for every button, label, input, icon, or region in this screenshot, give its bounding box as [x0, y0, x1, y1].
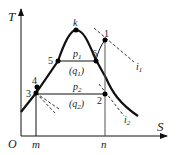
- isenthalp-i2-line-a: [36, 93, 59, 109]
- ts-diagram: T S O k 1 6 5 4 3 2 p1 (q1) p2 (q2) i1 i…: [0, 0, 179, 155]
- label-q2: (q2): [69, 98, 85, 111]
- label-i2: i2: [124, 114, 131, 127]
- label-p2: p2: [72, 81, 82, 94]
- point-5: [56, 59, 61, 64]
- label-i1: i1: [136, 61, 142, 74]
- s-axis-label: S: [157, 119, 164, 134]
- label-k: k: [73, 17, 78, 28]
- point-6: [94, 59, 99, 64]
- origin-label: O: [8, 137, 17, 151]
- label-6: 6: [92, 48, 97, 59]
- label-q1: (q1): [69, 65, 85, 78]
- label-5: 5: [48, 55, 53, 66]
- label-2: 2: [97, 95, 102, 106]
- t-axis-label: T: [8, 9, 16, 24]
- tick-n: n: [101, 138, 107, 150]
- label-p1: p1: [72, 48, 82, 61]
- isenthalp-i2-line-b: [36, 93, 55, 113]
- label-3: 3: [26, 88, 31, 99]
- point-3: [34, 91, 39, 96]
- label-1: 1: [104, 28, 109, 39]
- tick-m: m: [32, 138, 40, 150]
- point-k: [74, 28, 79, 33]
- isenthalp-i1-line: [94, 28, 134, 62]
- point-2: [103, 92, 108, 97]
- label-4: 4: [32, 75, 37, 86]
- superheat-curve-6-1: [96, 40, 105, 60]
